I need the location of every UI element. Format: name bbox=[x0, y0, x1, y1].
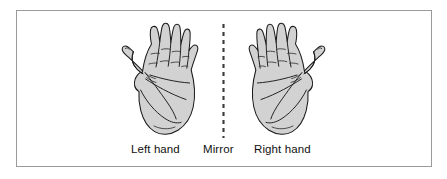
caption-mirror: Mirror bbox=[203, 143, 234, 155]
right-hand-icon bbox=[249, 23, 325, 134]
left-hand-outline bbox=[134, 23, 197, 134]
right-hand-outline bbox=[249, 23, 312, 134]
figure-root: Left hand Mirror Right hand bbox=[0, 0, 447, 179]
caption-left-hand: Left hand bbox=[131, 143, 180, 155]
left-hand-icon bbox=[122, 23, 198, 134]
caption-right-hand: Right hand bbox=[254, 143, 311, 155]
